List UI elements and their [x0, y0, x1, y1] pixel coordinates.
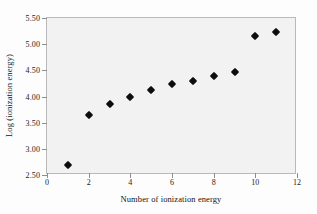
data-point — [64, 160, 72, 168]
x-tick-label: 2 — [87, 178, 91, 187]
x-axis-title: Number of ionization energy — [46, 194, 296, 204]
y-tick-label: 2.50 — [26, 171, 40, 180]
y-tick-mark — [42, 18, 47, 19]
chart-page: 2.503.003.504.004.505.005.50 024681012 N… — [0, 0, 317, 214]
plot-area — [47, 18, 295, 173]
data-point — [147, 85, 155, 93]
data-point — [189, 77, 197, 85]
y-tick-label: 4.50 — [26, 66, 40, 75]
data-point — [84, 111, 92, 119]
data-point — [209, 71, 217, 79]
x-tick-label: 10 — [251, 178, 259, 187]
data-point — [251, 32, 259, 40]
plot-frame: 2.503.003.504.004.505.005.50 024681012 — [46, 17, 296, 174]
y-tick-mark — [42, 149, 47, 150]
data-point — [126, 92, 134, 100]
y-tick-label: 4.00 — [26, 92, 40, 101]
y-tick-mark — [42, 44, 47, 45]
data-point — [230, 68, 238, 76]
x-tick-label: 4 — [128, 178, 132, 187]
data-point — [168, 80, 176, 88]
y-tick-label: 5.00 — [26, 40, 40, 49]
y-axis-title: Log (ionization energy) — [3, 17, 15, 174]
x-tick-label: 12 — [293, 178, 301, 187]
data-point — [272, 28, 280, 36]
y-tick-label: 3.00 — [26, 144, 40, 153]
y-tick-label: 5.50 — [26, 14, 40, 23]
data-point — [105, 100, 113, 108]
y-tick-mark — [42, 97, 47, 98]
x-tick-label: 0 — [45, 178, 49, 187]
x-tick-label: 8 — [212, 178, 216, 187]
y-tick-mark — [42, 70, 47, 71]
x-tick-label: 6 — [170, 178, 174, 187]
y-tick-label: 3.50 — [26, 118, 40, 127]
y-tick-mark — [42, 123, 47, 124]
